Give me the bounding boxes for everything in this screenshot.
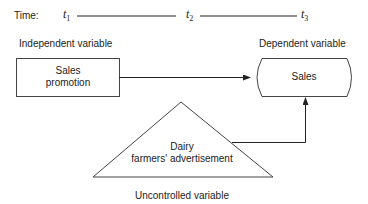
- diagram-lines: [0, 0, 368, 204]
- uncontrolled-variable-label: Dairy farmers' advertisement: [120, 141, 244, 165]
- uncontrolled-variable-caption: Uncontrolled variable: [120, 190, 244, 202]
- independent-variable-label: Sales promotion: [16, 65, 120, 89]
- time-point-t3: t3: [301, 8, 308, 25]
- uncontrolled-variable-triangle: [93, 102, 273, 177]
- dependent-variable-caption: Dependent variable: [259, 38, 346, 50]
- advertisement-to-sales-arrow: [232, 98, 306, 143]
- dependent-variable-label: Sales: [252, 71, 356, 83]
- independent-variable-caption: Independent variable: [19, 38, 112, 50]
- time-point-t2: t2: [186, 8, 193, 25]
- time-point-t1: t1: [63, 8, 70, 25]
- time-label: Time:: [14, 10, 39, 22]
